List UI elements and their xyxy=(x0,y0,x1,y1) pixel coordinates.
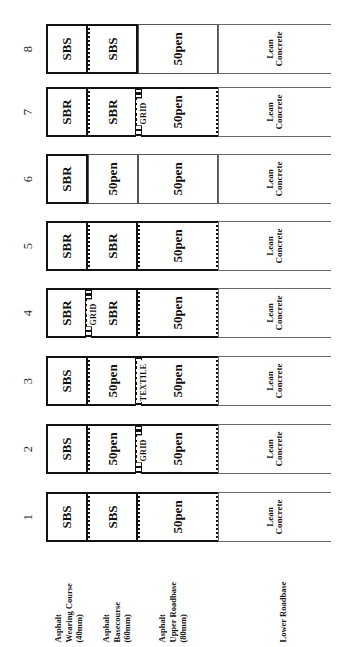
layer-cell-upper-roadbase: 50pen xyxy=(138,492,218,542)
section-6: 6SBR50pen50penLeanConcrete xyxy=(46,154,331,204)
layer-cell-wearing-course: SBS xyxy=(46,356,88,406)
layer-cell-upper-roadbase: 50pen xyxy=(138,24,218,74)
layer-stack: SBSSBS50penLeanConcrete xyxy=(46,492,331,542)
layer-cell-basecourse: 50pen xyxy=(88,154,138,204)
layer-stack: SBRSBR50penLeanConcreteGRID xyxy=(46,288,331,338)
layer-cell-label: SBR xyxy=(60,233,74,258)
section-number-label: 3 xyxy=(19,369,37,393)
layer-cell-label: 50pen xyxy=(171,500,185,533)
layer-cell-label: 50pen xyxy=(106,432,120,465)
layer-cell-label: 50pen xyxy=(171,32,185,65)
layer-cell-label: 50pen xyxy=(106,364,120,397)
layer-cell-basecourse: 50pen xyxy=(88,356,138,406)
layer-cell-upper-roadbase: 50pen xyxy=(138,288,218,338)
layer-cell-lower-roadbase: LeanConcrete xyxy=(218,424,331,474)
layer-cell-wearing-course: SBS xyxy=(46,24,88,74)
layer-cell-label: LeanConcrete xyxy=(266,162,285,197)
layer-cell-label: LeanConcrete xyxy=(266,95,285,130)
section-number-label: 4 xyxy=(19,301,37,325)
layer-cell-wearing-course: SBR xyxy=(46,221,88,271)
section-8: 8SBSSBS50penLeanConcrete xyxy=(46,24,331,74)
layer-stack: SBRSBR50penLeanConcrete xyxy=(46,221,331,271)
legend-asphalt-basecourse: AsphaltBasecourse(60mm) xyxy=(102,556,162,642)
pavement-section-diagram: 1SBSSBS50penLeanConcrete2SBS50pen50penLe… xyxy=(0,0,362,647)
layer-cell-label: LeanConcrete xyxy=(266,364,285,399)
section-5: 5SBRSBR50penLeanConcrete xyxy=(46,221,331,271)
interlayer-label-grid: GRID xyxy=(137,436,151,463)
layer-cell-basecourse: SBS xyxy=(88,24,138,74)
layer-legend: AsphaltWearing Course(40mm)AsphaltBaseco… xyxy=(46,556,346,644)
section-4: 4SBRSBR50penLeanConcreteGRID xyxy=(46,288,331,338)
legend-lower-roadbase: Lower Roadbase xyxy=(258,556,318,642)
layer-cell-label: 50pen xyxy=(106,162,120,195)
layer-cell-label: 50pen xyxy=(171,95,185,128)
section-3: 3SBS50pen50penLeanConcreteTEXTILE xyxy=(46,356,331,406)
interlayer-label-grid: GRID xyxy=(137,99,151,126)
layer-cell-lower-roadbase: LeanConcrete xyxy=(218,154,331,204)
layer-cell-lower-roadbase: LeanConcrete xyxy=(218,24,331,74)
layer-cell-label: SBS xyxy=(106,37,120,60)
layer-cell-label: 50pen xyxy=(171,364,185,397)
layer-cell-lower-roadbase: LeanConcrete xyxy=(218,492,331,542)
layer-cell-label: LeanConcrete xyxy=(266,432,285,467)
layer-cell-wearing-course: SBR xyxy=(46,87,88,137)
interlayer-label-grid: GRID xyxy=(87,300,101,327)
legend-label-text: AsphaltBasecourse(60mm) xyxy=(101,601,133,642)
layer-cell-label: SBR xyxy=(106,99,120,124)
layer-cell-basecourse: SBR xyxy=(88,221,138,271)
layer-cell-label: LeanConcrete xyxy=(266,296,285,331)
legend-asphalt-upper-roadbase: AsphaltUpper Roadbase(80mm) xyxy=(158,556,218,642)
layer-cell-label: LeanConcrete xyxy=(266,32,285,67)
layer-cell-lower-roadbase: LeanConcrete xyxy=(218,288,331,338)
layer-cell-label: SBR xyxy=(60,300,74,325)
layer-stack: SBR50pen50penLeanConcrete xyxy=(46,154,331,204)
interlayer-label-textile: TEXTILE xyxy=(137,360,151,402)
section-number-label: 7 xyxy=(19,100,37,124)
layer-cell-label: 50pen xyxy=(171,229,185,262)
layer-cell-label: SBR xyxy=(106,300,120,325)
legend-label-text: AsphaltUpper Roadbase(80mm) xyxy=(157,581,189,642)
layer-cell-label: SBS xyxy=(60,37,74,60)
layer-cell-upper-roadbase: 50pen xyxy=(138,154,218,204)
section-number-label: 5 xyxy=(19,234,37,258)
layer-cell-label: 50pen xyxy=(171,162,185,195)
layer-cell-basecourse: SBS xyxy=(88,492,138,542)
section-7: 7SBRSBR50penLeanConcreteGRID xyxy=(46,87,331,137)
layer-stack: SBS50pen50penLeanConcreteTEXTILE xyxy=(46,356,331,406)
layer-cell-label: 50pen xyxy=(171,296,185,329)
layer-cell-wearing-course: SBR xyxy=(46,154,88,204)
layer-cell-upper-roadbase: 50pen xyxy=(138,221,218,271)
layer-cell-wearing-course: SBS xyxy=(46,492,88,542)
layer-cell-wearing-course: SBR xyxy=(46,288,88,338)
layer-cell-label: 50pen xyxy=(171,432,185,465)
layer-cell-label: SBS xyxy=(60,369,74,392)
section-1: 1SBSSBS50penLeanConcrete xyxy=(46,492,331,542)
section-2: 2SBS50pen50penLeanConcreteGRID xyxy=(46,424,331,474)
layer-cell-basecourse: SBR xyxy=(88,87,138,137)
layer-stack: SBSSBS50penLeanConcrete xyxy=(46,24,331,74)
layer-stack: SBS50pen50penLeanConcreteGRID xyxy=(46,424,331,474)
layer-cell-label: SBS xyxy=(60,505,74,528)
layer-cell-label: SBS xyxy=(60,437,74,460)
legend-label-text: AsphaltWearing Course(40mm) xyxy=(53,583,85,642)
layer-cell-label: SBS xyxy=(106,505,120,528)
layer-cell-label: SBR xyxy=(60,99,74,124)
section-number-label: 2 xyxy=(19,437,37,461)
layer-cell-label: LeanConcrete xyxy=(266,500,285,535)
layer-cell-lower-roadbase: LeanConcrete xyxy=(218,221,331,271)
layer-cell-basecourse: 50pen xyxy=(88,424,138,474)
section-number-label: 1 xyxy=(19,505,37,529)
layer-cell-wearing-course: SBS xyxy=(46,424,88,474)
layer-cell-label: SBR xyxy=(60,166,74,191)
layer-stack: SBRSBR50penLeanConcreteGRID xyxy=(46,87,331,137)
layer-cell-label: SBR xyxy=(106,233,120,258)
section-number-label: 8 xyxy=(19,37,37,61)
layer-cell-label: LeanConcrete xyxy=(266,229,285,264)
layer-cell-lower-roadbase: LeanConcrete xyxy=(218,356,331,406)
layer-cell-lower-roadbase: LeanConcrete xyxy=(218,87,331,137)
section-number-label: 6 xyxy=(19,167,37,191)
legend-label-text: Lower Roadbase xyxy=(278,581,289,642)
